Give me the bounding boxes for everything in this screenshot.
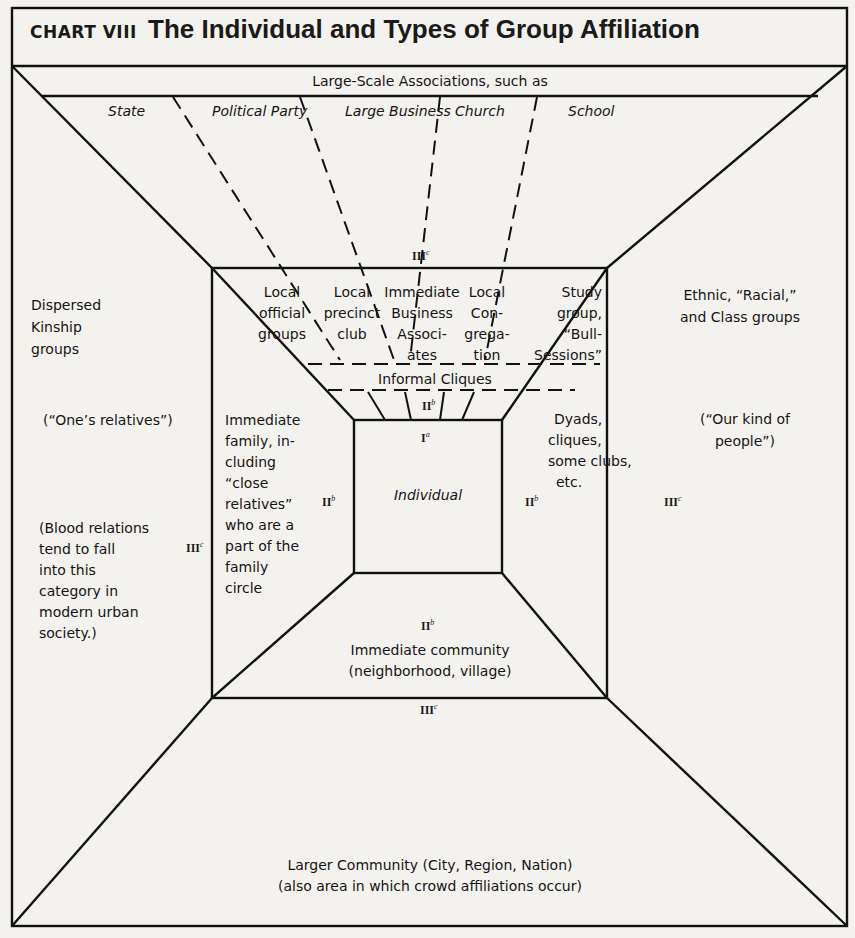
study-group-bull-sessions: Studygroup,“Bull-Sessions” — [522, 282, 602, 366]
dispersed-kinship-groups: DispersedKinshipgroups — [31, 294, 101, 360]
local-congregation: LocalCon-grega-tion — [458, 282, 516, 366]
immediate-business-associates: ImmediateBusinessAssoci-ates — [382, 282, 462, 366]
level-label-immediate-community: IIb — [421, 618, 434, 634]
association-political-party: Political Party — [212, 101, 307, 121]
informal-cliques-label: Informal Cliques — [360, 369, 510, 389]
our-kind-of-people-label: (“Our kind ofpeople”) — [660, 408, 830, 452]
association-large-business: Large Business — [345, 101, 451, 121]
chart-number: CHART VIII — [30, 22, 137, 42]
association-church: Church — [455, 101, 505, 121]
ones-relatives-label: (“One’s relatives”) — [43, 410, 173, 430]
ethnic-racial-class-groups: Ethnic, “Racial,”and Class groups — [640, 284, 840, 328]
individual-label: Individual — [356, 485, 500, 505]
local-precinct-club: Localprecinctclub — [320, 282, 384, 345]
association-state: State — [108, 101, 145, 121]
level-label-kinship: IIIc — [186, 540, 204, 556]
immediate-community-label: Immediate community(neighborhood, villag… — [310, 640, 550, 682]
chart-title: The Individual and Types of Group Affili… — [148, 14, 700, 45]
level-label-ethnic: IIIc — [664, 494, 682, 510]
level-label-dyads: IIb — [525, 494, 538, 510]
dyads-cliques-label: Dyads,cliques,some clubs,etc. — [548, 409, 632, 493]
larger-community-label: Larger Community (City, Region, Nation)(… — [230, 855, 630, 897]
level-label-cliques: IIb — [422, 398, 435, 414]
association-school: School — [568, 101, 614, 121]
level-label-family: IIb — [322, 494, 335, 510]
blood-relations-note: (Blood relationstend to fallinto this ca… — [39, 518, 149, 644]
large-scale-heading: Large-Scale Associations, such as — [250, 71, 610, 91]
outer-border — [12, 8, 847, 926]
level-label-larger-community: IIIc — [420, 702, 438, 718]
level-label-individual: Ia — [421, 430, 430, 446]
immediate-family-label: Immediatefamily, in-cluding “closerelati… — [225, 410, 300, 599]
local-official-groups: Localofficialgroups — [250, 282, 314, 345]
level-label-large-scale: IIIc — [412, 248, 430, 264]
diagram-frame — [0, 0, 855, 938]
